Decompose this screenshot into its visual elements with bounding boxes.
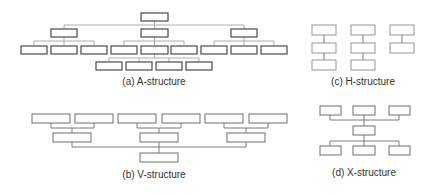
caption-x-structure: (d) X-structure	[332, 167, 396, 178]
a-node	[156, 62, 182, 70]
a-node	[96, 62, 122, 70]
x-node	[389, 106, 410, 115]
a-node	[186, 62, 212, 70]
v-node	[32, 114, 70, 123]
h-node	[312, 43, 336, 53]
a-node	[171, 46, 197, 54]
a-node	[231, 29, 257, 37]
h-node	[351, 43, 375, 53]
h-structure-diagram	[312, 25, 414, 70]
v-node	[140, 133, 178, 142]
x-node	[353, 106, 375, 115]
a-node	[231, 46, 257, 54]
a-node	[201, 46, 227, 54]
h-node	[390, 25, 414, 35]
x-node	[320, 106, 341, 115]
h-node	[390, 43, 414, 53]
a-node	[261, 46, 287, 54]
structure-diagram	[0, 0, 436, 194]
a-root-node	[141, 13, 168, 21]
caption-h-structure: (c) H-structure	[331, 76, 395, 87]
a-node	[141, 29, 168, 37]
v-node	[205, 114, 243, 123]
a-node	[111, 46, 137, 54]
a-node	[51, 46, 77, 54]
v-root-node	[140, 153, 178, 162]
h-node	[351, 25, 375, 35]
v-node	[249, 114, 287, 123]
caption-v-structure: (b) V-structure	[122, 169, 185, 180]
x-structure-diagram	[320, 106, 410, 155]
a-node	[51, 29, 77, 37]
a-node	[126, 62, 152, 70]
v-node	[53, 133, 91, 142]
x-node	[320, 146, 341, 155]
a-node	[141, 46, 168, 54]
a-node	[21, 46, 47, 54]
x-node	[389, 146, 410, 155]
caption-a-structure: (a) A-structure	[122, 76, 185, 87]
h-node	[312, 25, 336, 35]
a-structure-diagram	[21, 13, 287, 70]
v-node	[162, 114, 200, 123]
v-structure-diagram	[32, 114, 287, 162]
v-node	[118, 114, 156, 123]
x-center-node	[353, 126, 375, 135]
h-node	[351, 60, 375, 70]
v-node	[75, 114, 113, 123]
x-node	[353, 146, 375, 155]
a-node	[81, 46, 107, 54]
h-node	[312, 60, 336, 70]
v-node	[227, 133, 265, 142]
